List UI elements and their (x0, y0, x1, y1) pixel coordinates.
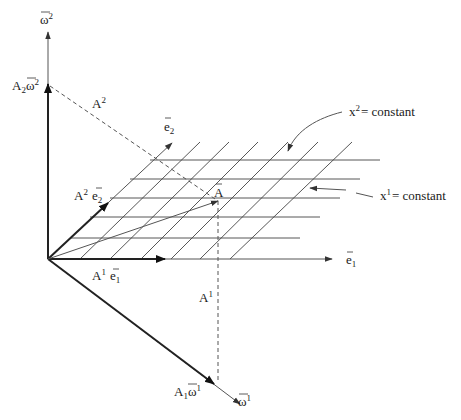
x1-callout-arrow (310, 188, 346, 190)
A2-e2-component (48, 203, 108, 259)
A2-omega2-label: A2ω2 (12, 77, 39, 95)
covector-basis-diagram: ω2 A2ω2 A2 e2 A2e2 A A1e1 e1 A1 A1ω1 ω1 (0, 0, 461, 420)
x1-callout-arrow-tail (356, 193, 373, 197)
omega2-axis-label: ω2 (40, 11, 53, 27)
vector-A (48, 201, 218, 259)
x2-constant-label: x2= constant (349, 103, 415, 119)
A-super1-label: A1 (199, 289, 213, 305)
grid-x2-constant-lines (70, 160, 380, 238)
vector-A-label: A (214, 185, 224, 200)
A1-e1-label: A1e1 (92, 267, 120, 285)
A2-e2-label: A2e2 (74, 187, 102, 205)
e2-label: e2 (164, 119, 174, 136)
A1-omega1-component (48, 259, 214, 384)
A1-omega1-label: A1ω1 (174, 383, 201, 401)
A2-projection-dashed (50, 86, 218, 201)
A-super2-label: A2 (92, 95, 106, 111)
x1-constant-label: x1= constant (380, 187, 446, 203)
e1-label: e1 (346, 252, 356, 269)
omega1-axis-label: ω1 (238, 393, 251, 409)
